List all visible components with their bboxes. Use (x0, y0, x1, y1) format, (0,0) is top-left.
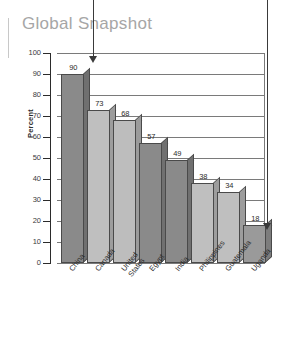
bar-front-face (61, 74, 84, 263)
y-axis-tick (43, 263, 50, 264)
y-axis-tick (43, 95, 50, 96)
chart-page: Global Snapshot 100 90 80 70 60 50 40 30… (0, 0, 297, 342)
right-annotation-line (267, 0, 268, 225)
plot-area: 90 73 68 57 49 (57, 53, 265, 263)
bar-value-label: 68 (121, 109, 129, 118)
bar-value-label: 57 (147, 132, 155, 141)
y-axis-tick (43, 53, 50, 54)
bar-canada[interactable]: 73 (87, 110, 110, 263)
y-axis-tick (43, 158, 50, 159)
y-axis-tick (43, 200, 50, 201)
left-annotation-arrowhead (89, 56, 97, 63)
gridline (57, 53, 265, 54)
bar-front-face (87, 110, 110, 263)
bar-india[interactable]: 49 (165, 160, 188, 263)
bar-value-label: 73 (95, 99, 103, 108)
y-axis-title-holder: Percent (30, 0, 42, 342)
y-axis-tick (43, 179, 50, 180)
right-annotation-arrowhead (263, 223, 271, 230)
y-axis-tick (43, 242, 50, 243)
bar-value-label: 49 (173, 149, 181, 158)
bar-united-states[interactable]: 68 (113, 120, 136, 263)
y-axis-tick (43, 137, 50, 138)
bar-value-label: 38 (199, 172, 207, 181)
y-axis-tick (43, 74, 50, 75)
bar-value-label: 34 (225, 181, 233, 190)
bar-front-face (165, 160, 188, 263)
y-axis-title: Percent (26, 109, 35, 138)
bar-value-label: 18 (251, 214, 259, 223)
bar-china[interactable]: 90 (61, 74, 84, 263)
y-axis-line (50, 53, 51, 264)
y-axis-tick (43, 116, 50, 117)
bar-value-label: 90 (69, 63, 77, 72)
y-axis-tick (43, 221, 50, 222)
bar-front-face (113, 120, 136, 263)
left-annotation-line (93, 0, 94, 58)
